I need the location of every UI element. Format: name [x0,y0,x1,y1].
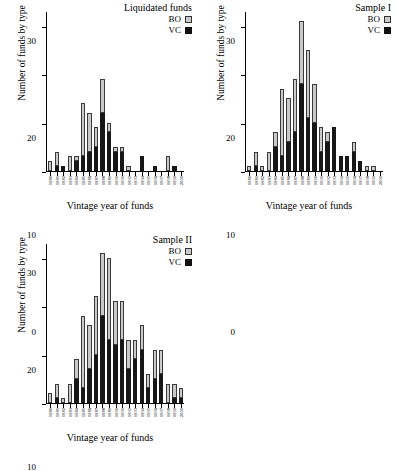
x-axis-tick-label: 1998 [165,408,170,417]
stacked-bar [55,152,59,171]
bar-segment-vc [159,374,163,403]
x-axis-tick-label: 1986 [87,176,92,185]
x-axis-tick-label: 1981 [253,176,258,185]
stacked-bar [345,156,349,171]
x-axis-tick-label: 1997 [358,176,363,185]
y-axis-title: Number of funds by type [216,0,226,118]
bar-segment-vc [299,84,303,171]
stacked-bar [166,384,170,403]
x-axis-tick-label: 1987 [93,176,98,185]
bar-segment-bo [371,166,375,171]
bar-segment-vc [325,142,329,171]
x-axis-tick-label: 1990 [312,176,317,185]
bar-segment-bo [94,296,98,354]
x-axis-tick-label: 1996 [152,176,157,185]
stacked-bar [352,142,356,171]
y-axis-tick: 20 [241,75,245,76]
y-axis-tick: 10 [42,124,46,125]
bar-segment-vc [126,369,130,403]
x-axis-tick-label: 1984 [273,176,278,185]
x-axis-tick-label: 1981 [54,408,59,417]
bar-segment-bo [48,161,52,171]
stacked-bar [273,132,277,171]
bar-segment-vc [94,147,98,171]
bar-segment-vc [172,398,176,403]
x-axis-tick-label: 1994 [139,176,144,185]
bar-segment-bo [61,398,65,403]
bar-segment-vc [55,398,59,403]
x-axis-title: Vintage year of funds [20,432,200,443]
legend-swatch-bo-icon [384,16,391,23]
bar-segment-vc [345,156,349,171]
bar-segment-bo [306,50,310,118]
stacked-bar [74,156,78,171]
bar-segment-vc [81,388,85,403]
bar-segment-vc [172,166,176,171]
x-axis-tick-label: 1982 [61,408,66,417]
bar-segment-vc [100,113,104,171]
x-axis-title: Vintage year of funds [20,200,200,211]
stacked-bar [166,156,170,171]
stacked-bar [371,166,375,171]
stacked-bar [68,384,72,403]
stacked-bar [299,21,303,171]
bar-segment-vc [140,350,144,403]
bar-segment-vc [358,161,362,171]
bar-segment-bo [126,340,130,369]
bar-segment-bo [254,152,258,167]
stacked-bar [61,398,65,403]
x-axis-tick-label: 1991 [120,176,125,185]
x-axis-tick-label: 1983 [266,176,271,185]
bar-segment-vc [61,166,65,171]
bar-segment-bo [48,393,52,403]
stacked-bar [100,253,104,403]
y-axis-tick: 30 [42,27,46,28]
x-axis-tick-label: 1998 [165,176,170,185]
plot-area: Number of funds by type Sample II BO VC … [0,232,198,471]
bar-segment-vc [153,166,157,171]
x-axis-tick-label: 1993 [133,176,138,185]
stacked-bar [120,301,124,403]
bar-segment-bo [299,21,303,84]
bar-segment-vc [312,123,316,171]
x-axis-tick-label: 1986 [87,408,92,417]
stacked-bar [365,166,369,171]
bar-segment-bo [87,325,91,369]
x-axis-tick-label: 1980 [48,176,53,185]
stacked-bar [68,156,72,171]
y-axis-tick-label: 20 [27,365,36,375]
stacked-bar [74,359,78,403]
bar-segment-bo [94,127,98,146]
bar-segment-bo [120,301,124,340]
stacked-bar [140,156,144,171]
bar-segment-vc [120,152,124,171]
bar-segment-vc [87,152,91,171]
plot-area: Number of funds by type Liquidated funds… [0,0,198,232]
stacked-bar [48,393,52,403]
x-axis-tick-label: 2000 [178,176,183,185]
bar-segment-bo [179,388,183,398]
bar-segment-bo [273,132,277,147]
y-axis-tick: 20 [42,307,46,308]
stacked-bar [254,152,258,171]
bar-segment-bo [81,103,85,156]
x-axis-tick-cell: 2000 [377,176,384,200]
bar-column [178,243,185,403]
x-axis-tick-label: 1991 [319,176,324,185]
bar-segment-vc [55,166,59,171]
y-axis-tick: 0 [42,404,46,405]
bar-segment-vc [133,359,137,403]
stacked-bar [107,123,111,171]
bar-segment-bo [325,132,329,142]
bar-segment-bo [140,325,144,349]
x-axis-tick-labels: 1980198119821983198419851986198719881989… [246,176,383,200]
y-axis-tick: 10 [42,356,46,357]
legend-swatch-bo-icon [185,248,192,255]
x-axis-tick-label: 1989 [306,176,311,185]
y-axis-tick-label: 30 [27,268,36,278]
x-axis-tick-label: 1992 [325,176,330,185]
x-axis-tick-labels: 1980198119821983198419851986198719881989… [47,176,184,200]
bar-segment-bo [172,384,176,399]
stacked-bar [133,340,137,403]
bar-segment-vc [113,345,117,403]
